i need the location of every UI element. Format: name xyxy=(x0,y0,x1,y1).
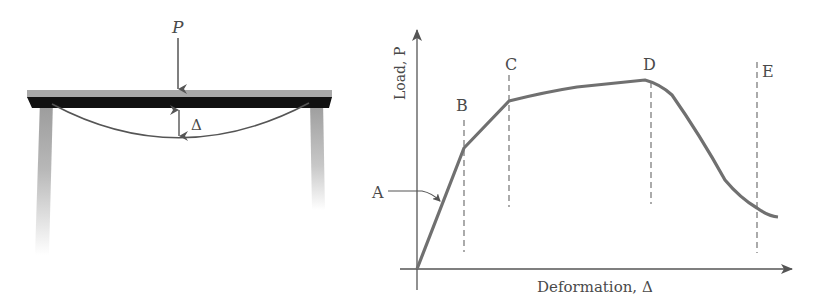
stage-label-b: B xyxy=(456,96,468,115)
stage-label-a: A xyxy=(371,183,384,202)
beam-top-face xyxy=(27,90,332,98)
load-deformation-chart: Load, P Deformation, Δ A B C D E xyxy=(371,30,792,296)
stage-a-pointer-arrow xyxy=(388,191,440,201)
left-support-post xyxy=(35,100,53,255)
x-axis-label: Deformation, Δ xyxy=(537,278,653,296)
beam-diagram: P Δ xyxy=(27,17,332,255)
stage-label-d: D xyxy=(643,55,656,74)
stage-label-e: E xyxy=(762,62,774,81)
beam-side-face xyxy=(27,97,332,108)
figure: P Δ Load, P Deformation, Δ A B C D E xyxy=(0,0,817,307)
deflection-label: Δ xyxy=(191,116,202,134)
deflected-shape-curve xyxy=(52,103,309,138)
stage-label-c: C xyxy=(505,55,517,74)
y-axis-label: Load, P xyxy=(392,47,408,100)
load-label: P xyxy=(171,17,184,37)
right-support-post xyxy=(310,100,325,210)
load-deformation-curve xyxy=(417,80,778,269)
